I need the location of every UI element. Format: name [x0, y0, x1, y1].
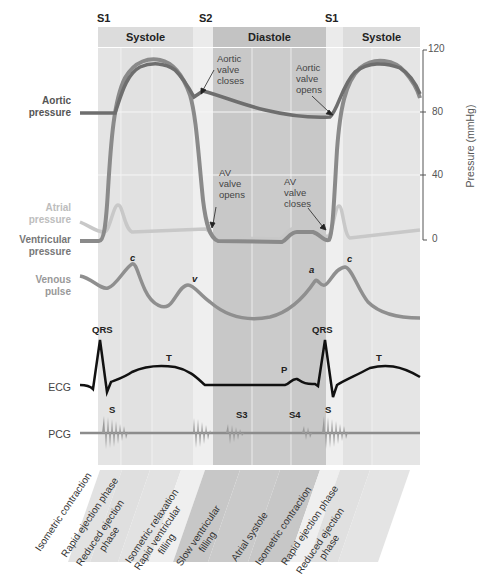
- tick-120: 120: [428, 43, 445, 54]
- venous-label-c2: c: [347, 253, 352, 264]
- ecg-label-t2: T: [376, 352, 382, 363]
- ecg-label-qrs2: QRS: [312, 324, 333, 335]
- ann-line: opens: [296, 84, 322, 95]
- tick-80: 80: [432, 106, 443, 117]
- annotation-av-valve-closes: AV valve closes: [284, 176, 311, 209]
- pcg-burst-s4: [302, 426, 312, 440]
- venous-label-a: a: [309, 264, 314, 275]
- ann-line: Aortic: [296, 62, 322, 73]
- pressure-axis: [420, 50, 427, 240]
- ecg-label-p: P: [281, 364, 287, 375]
- ann-line: Aortic: [217, 53, 244, 64]
- ann-line: valve: [284, 187, 311, 198]
- ann-line: AV: [284, 176, 311, 187]
- pcg-burst-s2: [193, 418, 211, 448]
- venous-label-c1: c: [130, 252, 135, 263]
- tick-40: 40: [432, 169, 443, 180]
- venous-label-v: v: [192, 273, 197, 284]
- ecg-label-qrs1: QRS: [92, 324, 113, 335]
- ecg-label-t1: T: [166, 352, 172, 363]
- venous-pulse-trace: [80, 264, 420, 319]
- ann-line: valve: [296, 73, 322, 84]
- annotation-av-valve-opens: AV valve opens: [219, 167, 245, 200]
- pcg-label-s1: S: [109, 404, 115, 415]
- pcg-label-s2: S: [325, 404, 331, 415]
- pcg-label-s4: S4: [289, 409, 301, 420]
- ecg-trace: [80, 340, 420, 397]
- ann-line: valve: [217, 64, 244, 75]
- ann-line: closes: [217, 75, 244, 86]
- ann-line: valve: [219, 178, 245, 189]
- atrial-pressure-trace: [80, 205, 420, 239]
- ann-line: opens: [219, 189, 245, 200]
- tick-0: 0: [432, 233, 438, 244]
- ann-line: closes: [284, 198, 311, 209]
- ann-line: AV: [219, 167, 245, 178]
- annotation-aortic-valve-closes: Aortic valve closes: [217, 53, 244, 86]
- annotation-aortic-valve-opens: Aortic valve opens: [296, 62, 322, 95]
- pcg-label-s3: S3: [236, 409, 248, 420]
- axis-label-pressure: Pressure (mmHg): [464, 96, 476, 196]
- ventricular-pressure-trace: [80, 59, 420, 242]
